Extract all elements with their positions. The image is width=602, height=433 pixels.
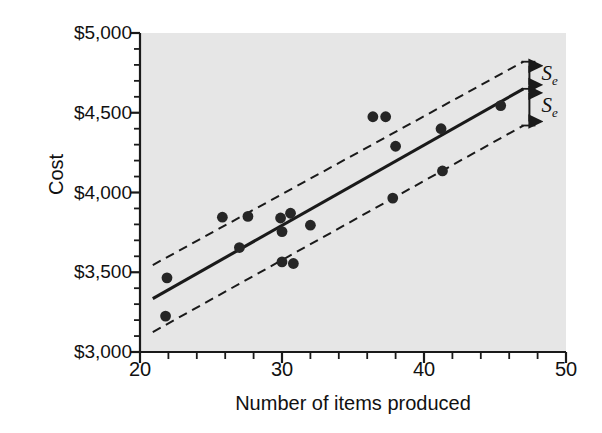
data-point [160,311,171,322]
data-point [275,213,286,224]
se-symbol: S [541,93,552,117]
se-subscript: e [552,105,558,120]
data-point [436,123,447,134]
data-point [288,258,299,269]
data-point [277,256,288,267]
y-tick-label: $3,500 [32,261,132,283]
x-tick-label: 50 [536,358,596,381]
se-symbol: S [541,61,552,85]
y-tick-label: $4,000 [32,182,132,204]
data-point [437,166,448,177]
y-tick-label: $4,500 [32,102,132,124]
data-point [367,111,378,122]
data-point [217,212,228,223]
data-point [243,211,254,222]
data-point [285,208,296,219]
x-tick-label: 40 [394,358,454,381]
data-point [234,242,245,253]
se-subscript: e [552,73,558,88]
x-tick-label: 30 [252,358,312,381]
data-point [277,226,288,237]
se-lower-label: Se [541,93,557,121]
data-point [495,100,506,111]
se-upper-label: Se [541,61,557,89]
x-tick-label: 20 [110,358,170,381]
x-axis-major-ticks [140,352,566,363]
data-point [162,272,173,283]
plot-area-background [140,33,566,352]
data-point [380,111,391,122]
x-axis-title: Number of items produced [140,392,566,415]
y-tick-label: $5,000 [32,22,132,44]
data-point [387,193,398,204]
data-point [305,220,316,231]
data-point [390,141,401,152]
